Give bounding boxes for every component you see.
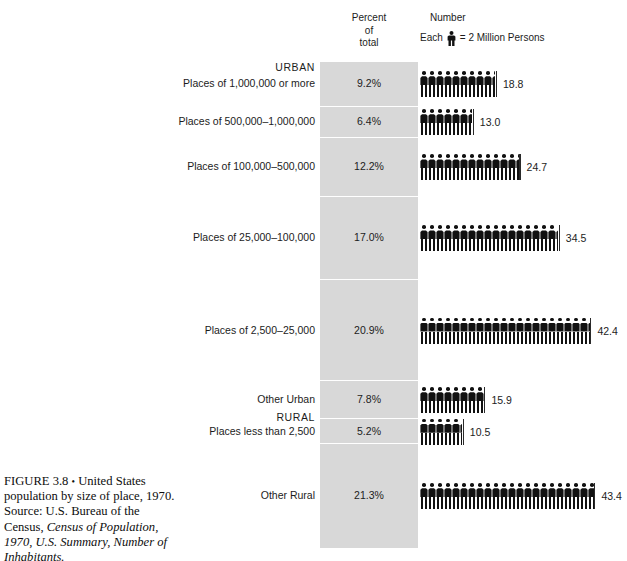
percent-header-line-1: Percent bbox=[320, 12, 418, 25]
pictograph-row: 42.4 bbox=[420, 318, 618, 344]
person-figure-icon bbox=[516, 154, 519, 180]
row-label: Other Rural bbox=[261, 489, 315, 501]
person-figure-icon bbox=[420, 419, 428, 445]
person-figure-icon bbox=[420, 71, 428, 97]
person-figure-icon bbox=[460, 71, 468, 97]
figure-group bbox=[420, 387, 484, 413]
person-figure-icon bbox=[444, 419, 452, 445]
person-figure-icon bbox=[436, 483, 444, 509]
number-value: 43.4 bbox=[601, 483, 621, 509]
person-figure-icon bbox=[468, 109, 472, 135]
person-figure-icon bbox=[580, 483, 588, 509]
percent-value: 6.4% bbox=[320, 115, 418, 127]
person-figure-icon bbox=[460, 419, 462, 445]
person-figure-icon bbox=[484, 318, 492, 344]
number-value: 13.0 bbox=[480, 109, 500, 135]
person-figure-icon bbox=[428, 109, 436, 135]
figure-group bbox=[420, 71, 495, 97]
person-figure-icon bbox=[468, 225, 476, 251]
person-figure-icon bbox=[452, 109, 460, 135]
person-figure-icon bbox=[444, 387, 452, 413]
percent-header-line-2: of bbox=[320, 25, 418, 38]
person-figure-icon bbox=[540, 225, 548, 251]
person-figure-icon bbox=[500, 318, 508, 344]
person-figure-icon bbox=[540, 318, 548, 344]
person-figure-icon bbox=[436, 71, 444, 97]
person-figure-icon bbox=[452, 419, 460, 445]
percent-value: 5.2% bbox=[320, 425, 418, 437]
person-figure-icon bbox=[420, 387, 428, 413]
person-figure-icon bbox=[460, 387, 468, 413]
percent-value: 9.2% bbox=[320, 77, 418, 89]
caption-bullet: • bbox=[72, 476, 76, 487]
person-figure-icon bbox=[564, 483, 572, 509]
person-figure-icon bbox=[572, 318, 580, 344]
person-figure-icon bbox=[428, 387, 436, 413]
person-figure-icon bbox=[428, 154, 436, 180]
row-end-tick bbox=[590, 318, 591, 344]
person-figure-icon bbox=[492, 154, 500, 180]
legend-prefix-label: Each bbox=[420, 32, 443, 43]
person-figure-icon bbox=[460, 225, 468, 251]
figure-group bbox=[420, 225, 558, 251]
person-figure-icon bbox=[500, 483, 508, 509]
pictograph-row: 34.5 bbox=[420, 225, 586, 251]
person-figure-icon bbox=[508, 225, 516, 251]
row-end-tick bbox=[594, 483, 595, 509]
row-label: Places of 1,000,000 or more bbox=[183, 77, 315, 89]
person-figure-icon bbox=[532, 483, 540, 509]
person-figure-icon bbox=[572, 483, 580, 509]
person-figure-icon bbox=[444, 225, 452, 251]
person-figure-icon bbox=[444, 71, 452, 97]
number-value: 24.7 bbox=[527, 154, 547, 180]
person-figure-icon bbox=[540, 483, 548, 509]
pictograph-legend: Each = 2 Million Persons bbox=[420, 30, 545, 45]
row-label: Places of 100,000–500,000 bbox=[187, 160, 315, 172]
row-label: Places less than 2,500 bbox=[209, 425, 315, 437]
person-figure-icon bbox=[516, 483, 524, 509]
person-figure-icon bbox=[556, 225, 558, 251]
person-figure-icon bbox=[484, 71, 492, 97]
legend-suffix-label: = 2 Million Persons bbox=[460, 32, 545, 43]
person-figure-icon bbox=[548, 318, 556, 344]
figure-group bbox=[420, 483, 594, 509]
person-figure-icon bbox=[524, 225, 532, 251]
row-end-tick bbox=[496, 71, 497, 97]
person-figure-icon bbox=[580, 318, 588, 344]
person-figure-icon bbox=[588, 483, 594, 509]
person-figure-icon bbox=[492, 318, 500, 344]
percent-header-line-3: total bbox=[320, 37, 418, 50]
person-figure-icon bbox=[420, 318, 428, 344]
person-figure-icon bbox=[476, 318, 484, 344]
group-label-urban: URBAN bbox=[275, 61, 315, 73]
person-figure-icon bbox=[476, 387, 484, 413]
person-figure-icon bbox=[556, 483, 564, 509]
person-figure-icon bbox=[524, 318, 532, 344]
caption-figure-number: FIGURE 3.8 bbox=[4, 474, 68, 488]
person-figure-icon bbox=[444, 318, 452, 344]
row-end-tick bbox=[519, 154, 520, 180]
person-figure-icon bbox=[420, 109, 428, 135]
row-label: Places of 500,000–1,000,000 bbox=[178, 115, 315, 127]
person-figure-icon bbox=[428, 71, 436, 97]
person-figure-icon bbox=[468, 71, 476, 97]
person-figure-icon bbox=[428, 419, 436, 445]
percent-band: 9.2%6.4%12.2%17.0%20.9%7.8%5.2%21.3% bbox=[320, 62, 418, 548]
person-figure-icon bbox=[468, 154, 476, 180]
pictograph-row: 18.8 bbox=[420, 71, 523, 97]
person-figure-icon bbox=[436, 225, 444, 251]
number-value: 15.9 bbox=[491, 387, 511, 413]
person-figure-icon bbox=[564, 318, 572, 344]
person-figure-icon bbox=[492, 225, 500, 251]
person-figure-icon bbox=[484, 483, 492, 509]
person-figure-icon bbox=[548, 483, 556, 509]
person-figure-icon bbox=[420, 483, 428, 509]
person-figure-icon bbox=[452, 483, 460, 509]
row-label: Places of 25,000–100,000 bbox=[193, 231, 315, 243]
person-figure-icon bbox=[508, 318, 516, 344]
number-value: 34.5 bbox=[566, 225, 586, 251]
percent-value: 21.3% bbox=[320, 489, 418, 501]
number-value: 10.5 bbox=[470, 419, 490, 445]
percent-of-total-header: Percent of total bbox=[320, 12, 418, 50]
row-label: Other Urban bbox=[257, 393, 315, 405]
